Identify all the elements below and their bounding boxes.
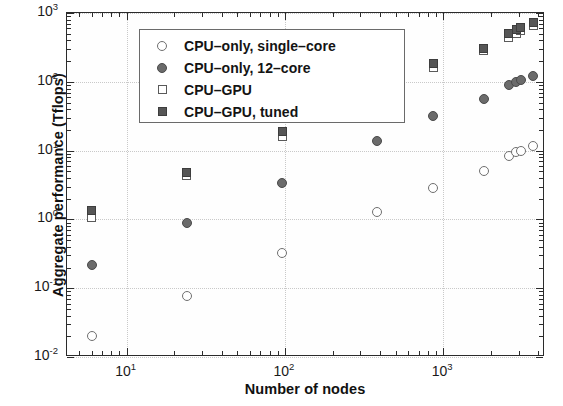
y-tick bbox=[67, 255, 71, 256]
x-tick bbox=[260, 351, 261, 355]
legend: CPU–only, single–coreCPU–only, 12–coreCP… bbox=[139, 29, 405, 123]
y-tick-right bbox=[539, 61, 543, 62]
scatter-plot-figure: Aggregate performance (Tflops) Number of… bbox=[0, 0, 563, 406]
y-tick-right bbox=[536, 13, 543, 14]
y-tick-right bbox=[536, 219, 543, 220]
x-tick-top bbox=[79, 13, 80, 17]
data-point-square-filled bbox=[87, 206, 96, 215]
x-tick bbox=[419, 351, 420, 355]
x-tick-top bbox=[419, 13, 420, 17]
y-tick bbox=[67, 309, 71, 310]
y-tick-label: 10-2 bbox=[18, 347, 58, 363]
gridline-horizontal bbox=[67, 151, 543, 152]
y-tick-right bbox=[539, 118, 543, 119]
x-tick bbox=[408, 351, 409, 355]
x-tick bbox=[538, 351, 539, 355]
y-tick-right bbox=[539, 226, 543, 227]
y-tick-right bbox=[539, 49, 543, 50]
x-tick-top bbox=[237, 13, 238, 17]
y-tick-right bbox=[539, 255, 543, 256]
y-tick-right bbox=[539, 166, 543, 167]
y-tick-right bbox=[539, 291, 543, 292]
gridline-horizontal bbox=[67, 288, 543, 289]
data-point-circle-filled bbox=[516, 75, 526, 85]
y-tick-label: 100 bbox=[18, 209, 58, 225]
y-tick bbox=[67, 151, 74, 152]
x-tick-top bbox=[270, 13, 271, 17]
x-tick-top bbox=[102, 13, 103, 17]
data-point-square-filled bbox=[529, 18, 538, 27]
y-tick-right bbox=[539, 154, 543, 155]
x-tick bbox=[111, 351, 112, 355]
y-tick bbox=[67, 240, 71, 241]
y-tick-right bbox=[539, 16, 543, 17]
y-tick-right bbox=[539, 85, 543, 86]
y-tick-label: 101 bbox=[18, 141, 58, 157]
x-tick-label: 103 bbox=[418, 363, 466, 379]
legend-swatch-circle-open bbox=[157, 41, 167, 51]
y-tick-right bbox=[539, 309, 543, 310]
y-tick-right bbox=[539, 187, 543, 188]
x-axis-title: Number of nodes bbox=[66, 381, 544, 397]
y-tick bbox=[67, 118, 71, 119]
y-tick bbox=[67, 161, 71, 162]
y-tick-right bbox=[539, 34, 543, 35]
data-point-square-filled bbox=[479, 44, 488, 53]
y-tick-right bbox=[539, 171, 543, 172]
y-tick-right bbox=[539, 178, 543, 179]
y-tick bbox=[67, 13, 74, 14]
y-tick bbox=[67, 187, 71, 188]
x-tick bbox=[491, 351, 492, 355]
data-point-circle-filled bbox=[87, 260, 97, 270]
x-tick-top bbox=[396, 13, 397, 17]
legend-swatch-square-filled bbox=[158, 107, 167, 116]
x-tick-top bbox=[119, 13, 120, 17]
x-tick bbox=[428, 351, 429, 355]
y-tick bbox=[67, 230, 71, 231]
x-tick-top bbox=[380, 13, 381, 17]
y-tick bbox=[67, 336, 71, 337]
y-tick bbox=[67, 166, 71, 167]
data-point-circle-filled bbox=[182, 218, 192, 228]
y-tick-right bbox=[539, 40, 543, 41]
x-tick bbox=[79, 351, 80, 355]
y-tick-right bbox=[539, 247, 543, 248]
x-tick bbox=[119, 351, 120, 355]
y-tick bbox=[67, 299, 71, 300]
x-tick-top bbox=[250, 13, 251, 17]
legend-entry: CPU–only, single–core bbox=[140, 34, 404, 57]
y-tick-right bbox=[539, 93, 543, 94]
legend-marker-circle-open bbox=[140, 34, 184, 57]
data-point-circle-open bbox=[372, 207, 382, 217]
legend-label: CPU–GPU, tuned bbox=[184, 104, 298, 120]
y-tick-right bbox=[539, 295, 543, 296]
data-point-circle-filled bbox=[479, 94, 489, 104]
data-point-square-filled bbox=[182, 168, 191, 177]
legend-marker-square-filled bbox=[140, 100, 184, 123]
y-tick bbox=[67, 295, 71, 296]
y-tick-right bbox=[536, 357, 543, 358]
y-tick bbox=[67, 157, 71, 158]
y-tick-right bbox=[539, 89, 543, 90]
gridline-vertical bbox=[443, 13, 444, 355]
y-tick-right bbox=[536, 288, 543, 289]
data-point-circle-filled bbox=[528, 71, 538, 81]
y-tick bbox=[67, 109, 71, 110]
x-tick bbox=[285, 348, 286, 355]
x-tick-label: 101 bbox=[102, 363, 150, 379]
x-tick bbox=[237, 351, 238, 355]
y-tick bbox=[67, 20, 71, 21]
y-tick-right bbox=[539, 28, 543, 29]
x-tick-top bbox=[428, 13, 429, 17]
x-tick-top bbox=[519, 13, 520, 17]
x-tick bbox=[396, 351, 397, 355]
y-tick-right bbox=[539, 199, 543, 200]
gridline-horizontal bbox=[67, 13, 543, 14]
legend-marker-circle-filled bbox=[140, 56, 184, 79]
y-tick bbox=[67, 34, 71, 35]
x-tick-top bbox=[174, 13, 175, 17]
y-tick bbox=[67, 268, 71, 269]
data-point-square-filled bbox=[429, 59, 438, 68]
y-tick bbox=[67, 40, 71, 41]
y-tick-label: 10-1 bbox=[18, 278, 58, 294]
